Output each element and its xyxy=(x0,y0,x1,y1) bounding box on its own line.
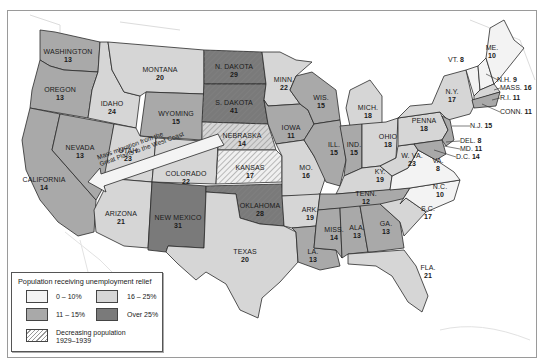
label-pennsylvania: PENNA18 xyxy=(412,117,437,133)
label-north-dakota: N. DAKOTA29 xyxy=(215,63,253,79)
label-kansas: KANSAS17 xyxy=(236,164,265,180)
legend-label-0-10: 0 – 10% xyxy=(56,293,82,301)
callout-new-jersey: N.J. 15 xyxy=(470,122,492,130)
legend-swatch-0-10 xyxy=(26,290,48,303)
label-georgia: GA.13 xyxy=(380,220,392,236)
label-iowa: IOWA11 xyxy=(282,124,301,140)
legend-hatch-line2: 1929–1939 xyxy=(56,337,126,345)
label-california: CALIFORNIA14 xyxy=(22,176,65,192)
callout-dc: D.C. 14 xyxy=(456,153,480,161)
legend-swatch-11-15 xyxy=(26,308,48,321)
legend-swatch-over-25 xyxy=(96,308,118,321)
callout-delaware: DEL. 8 xyxy=(460,137,481,145)
callout-massachusetts: MASS. 16 xyxy=(500,84,532,92)
label-tennessee: TENN.12 xyxy=(355,190,377,206)
map-legend: Population receiving unemployment relief… xyxy=(11,272,163,352)
label-minnesota: MINN.22 xyxy=(274,76,294,92)
label-west-virginia: W. VA.23 xyxy=(401,152,422,168)
label-arkansas: ARK.19 xyxy=(302,206,319,222)
callout-new-hampshire: N.H. 9 xyxy=(497,76,517,84)
label-colorado: COLORADO22 xyxy=(166,170,207,186)
callout-rhode-island: R.I. 11 xyxy=(500,94,520,102)
label-florida: FLA.21 xyxy=(420,264,435,280)
label-washington: WASHINGTON13 xyxy=(44,48,93,64)
label-nebraska: NEBRASKA14 xyxy=(223,132,262,148)
state-new-york xyxy=(398,70,474,120)
callout-connecticut: CONN. 11 xyxy=(500,108,532,116)
legend-hatch-line1: Decreasing population xyxy=(56,329,126,337)
label-new-york: N.Y.17 xyxy=(445,88,458,104)
label-north-carolina: N.C.10 xyxy=(433,183,447,199)
callout-vermont: VT. 8 xyxy=(448,56,464,64)
legend-label-over-25: Over 25% xyxy=(127,311,158,319)
label-arizona: ARIZONA21 xyxy=(105,210,137,226)
label-maine: ME.10 xyxy=(486,44,499,60)
label-south-dakota: S. DAKOTA41 xyxy=(215,99,253,115)
label-oregon: OREGON13 xyxy=(44,86,76,102)
label-south-carolina: S.C.17 xyxy=(421,205,435,221)
label-ohio: OHIO18 xyxy=(379,133,397,149)
legend-swatch-16-25 xyxy=(96,290,118,303)
callout-maryland: MD. 11 xyxy=(460,145,482,153)
label-alabama: ALA.13 xyxy=(349,224,365,240)
label-texas: TEXAS20 xyxy=(233,248,256,264)
label-missouri: MO.16 xyxy=(299,164,313,180)
label-utah: UTAH23 xyxy=(119,147,138,163)
label-indiana: IND.15 xyxy=(347,141,361,157)
label-virginia: VA.8 xyxy=(432,157,443,173)
state-florida xyxy=(348,250,428,312)
legend-label-11-15: 11 – 15% xyxy=(56,311,85,319)
label-kentucky: KY.19 xyxy=(375,168,386,184)
label-mississippi: MISS.14 xyxy=(324,226,344,242)
legend-swatch-hatch xyxy=(26,329,48,342)
label-nevada: NEVADA13 xyxy=(66,144,95,160)
label-new-mexico: NEW MEXICO31 xyxy=(155,214,202,230)
legend-label-decreasing: Decreasing population 1929–1939 xyxy=(56,329,126,345)
label-michigan: MICH.18 xyxy=(358,104,378,120)
legend-title: Population receiving unemployment relief xyxy=(18,277,151,286)
legend-label-16-25: 16 – 25% xyxy=(127,293,157,301)
label-montana: MONTANA20 xyxy=(142,66,177,82)
label-oklahoma: OKLAHOMA28 xyxy=(240,202,280,218)
label-louisiana: LA.13 xyxy=(308,248,319,264)
label-illinois: ILL.15 xyxy=(328,141,340,157)
label-wisconsin: WIS.15 xyxy=(313,94,329,110)
label-wyoming: WYOMING15 xyxy=(158,110,194,126)
label-idaho: IDAHO24 xyxy=(101,100,124,116)
